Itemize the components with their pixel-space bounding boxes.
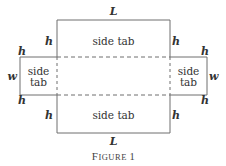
figure-1-box-net-diagram: L L h h h h h h h h w w side tab side ta… [0,0,226,166]
label-height-righttab-top: h [201,45,209,58]
label-height-bottom-right: h [172,109,180,122]
label-height-top-left: h [45,35,53,48]
caption-number: 1 [129,151,135,162]
label-height-righttab-bottom: h [201,94,209,107]
bottom-side-tab-label: side tab [92,109,134,121]
label-height-lefttab-bottom: h [18,94,26,107]
label-height-bottom-left: h [45,109,53,122]
figure-caption: FIGURE 1 [92,150,135,162]
label-height-lefttab-top: h [18,45,26,58]
label-length-bottom: L [109,135,118,148]
caption-first-letter: F [92,150,99,162]
label-width-right: w [209,70,219,83]
right-side-tab-label-line2: tab [180,76,197,88]
top-side-tab-label: side tab [92,35,134,47]
label-height-top-right: h [172,35,180,48]
label-length-top: L [109,5,118,18]
caption-rest: IGURE [98,152,126,162]
left-side-tab-label-line2: tab [30,76,47,88]
diagram-canvas: L L h h h h h h h h w w side tab side ta… [0,0,226,166]
label-width-left: w [8,70,18,83]
